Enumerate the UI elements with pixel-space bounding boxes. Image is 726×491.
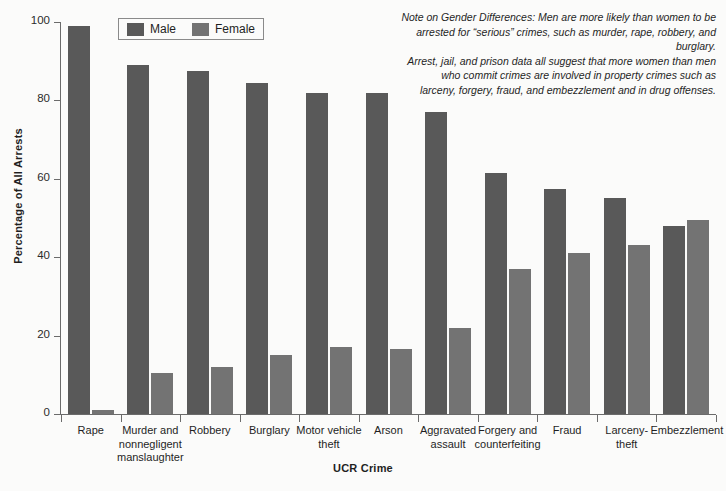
x-axis-tick xyxy=(656,415,657,422)
plot-area xyxy=(61,22,716,414)
category-label-line: Embezzlement xyxy=(650,424,722,438)
y-axis-tick-label: 60 xyxy=(0,171,50,183)
y-axis-tick-label: 20 xyxy=(0,328,50,340)
y-axis-tick-label: 0 xyxy=(0,406,50,418)
bar-male xyxy=(306,93,328,414)
y-axis-tick xyxy=(54,22,61,23)
bar-male xyxy=(246,83,268,414)
y-axis-tick-label: 80 xyxy=(0,92,50,104)
bar-female xyxy=(509,269,531,414)
bar-group xyxy=(544,22,590,414)
x-axis-title: UCR Crime xyxy=(0,462,726,474)
category-label-line: theft xyxy=(591,438,663,452)
bar-group xyxy=(485,22,531,414)
y-axis-tick xyxy=(54,336,61,337)
category-label-line: counterfeiting xyxy=(472,438,544,452)
bar-group xyxy=(127,22,173,414)
x-axis-tick xyxy=(121,415,122,422)
x-axis-category-label: Embezzlement xyxy=(650,424,722,438)
bar-female xyxy=(211,367,233,414)
x-axis-tick xyxy=(537,415,538,422)
bar-male xyxy=(485,173,507,414)
bar-female xyxy=(151,373,173,414)
y-axis-tick xyxy=(54,414,61,415)
bar-female xyxy=(330,347,352,414)
bar-group xyxy=(68,22,114,414)
bar-male xyxy=(366,93,388,414)
category-label-line: nonnegligent xyxy=(115,438,187,452)
x-axis-tick xyxy=(299,415,300,422)
bar-male xyxy=(127,65,149,414)
y-axis-tick xyxy=(54,100,61,101)
bar-male xyxy=(604,198,626,414)
bar-group xyxy=(306,22,352,414)
bar-group xyxy=(604,22,650,414)
x-axis-tick xyxy=(61,415,62,422)
bar-male xyxy=(425,112,447,414)
bar-male xyxy=(544,189,566,414)
x-axis-tick xyxy=(478,415,479,422)
bar-female xyxy=(687,220,709,414)
x-axis-tick xyxy=(716,415,717,422)
x-axis-tick xyxy=(359,415,360,422)
x-axis-tick xyxy=(240,415,241,422)
bar-male xyxy=(663,226,685,414)
bar-group xyxy=(187,22,233,414)
bar-female xyxy=(270,355,292,414)
bar-group xyxy=(425,22,471,414)
bar-male xyxy=(187,71,209,414)
bar-female xyxy=(568,253,590,414)
bar-group xyxy=(366,22,412,414)
chart-page: Male Female Note on Gender Differences: … xyxy=(0,0,726,491)
x-axis-tick xyxy=(180,415,181,422)
y-axis-tick xyxy=(54,179,61,180)
y-axis-tick xyxy=(54,257,61,258)
y-axis-title: Percentage of All Arrests xyxy=(12,96,24,296)
x-axis-tick xyxy=(597,415,598,422)
category-label-line: theft xyxy=(293,438,365,452)
y-axis-tick-label: 40 xyxy=(0,249,50,261)
x-axis-tick xyxy=(418,415,419,422)
y-axis-tick-label: 100 xyxy=(0,14,50,26)
x-axis-line xyxy=(60,414,716,415)
bar-group xyxy=(663,22,709,414)
bar-female xyxy=(628,245,650,414)
bar-female xyxy=(449,328,471,414)
bar-female xyxy=(390,349,412,414)
bar-female xyxy=(92,410,114,414)
bar-male xyxy=(68,26,90,414)
bar-group xyxy=(246,22,292,414)
